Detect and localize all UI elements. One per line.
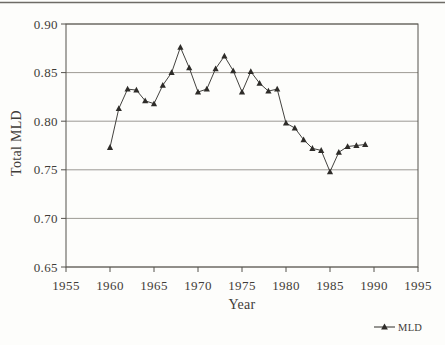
x-axis-title: Year (229, 297, 256, 312)
data-point-marker (274, 86, 280, 92)
x-tick-label: 1995 (404, 278, 432, 293)
x-tick-label: 1965 (140, 278, 168, 293)
y-tick-label: 0.90 (34, 17, 58, 32)
y-tick-label: 0.65 (34, 260, 58, 275)
data-point-marker (362, 141, 368, 147)
data-point-marker (327, 168, 333, 174)
data-point-marker (248, 68, 254, 74)
y-tick-label: 0.85 (34, 65, 58, 80)
data-point-marker (107, 144, 113, 150)
data-point-marker (177, 44, 183, 50)
data-point-marker (221, 53, 227, 59)
y-axis-title: Total MLD (9, 110, 24, 176)
data-point-marker (230, 67, 236, 73)
y-tick-label: 0.75 (34, 162, 58, 177)
data-point-marker (283, 120, 289, 126)
figure-page: 0.650.700.750.800.850.90 195519601965197… (0, 0, 445, 345)
data-point-marker (239, 89, 245, 95)
y-tick-label: 0.70 (34, 211, 58, 226)
x-tick-label: 1970 (184, 278, 212, 293)
mld-series (107, 44, 368, 174)
y-axis-ticks: 0.650.700.750.800.850.90 (34, 17, 66, 275)
x-tick-label: 1975 (228, 278, 256, 293)
x-tick-label: 1960 (96, 278, 124, 293)
x-tick-label: 1980 (272, 278, 300, 293)
x-tick-label: 1955 (52, 278, 80, 293)
data-point-marker (125, 86, 131, 92)
data-point-marker (336, 149, 342, 155)
legend: MLD (374, 322, 422, 333)
data-point-marker (204, 86, 210, 92)
x-axis-ticks: 195519601965197019751980198519901995 (52, 267, 432, 293)
legend-label: MLD (398, 322, 422, 333)
data-point-marker (292, 125, 298, 131)
mld-line-chart: 0.650.700.750.800.850.90 195519601965197… (0, 0, 445, 345)
series-line (110, 47, 365, 171)
data-point-marker (186, 64, 192, 70)
y-tick-label: 0.80 (34, 114, 58, 129)
x-tick-label: 1990 (360, 278, 388, 293)
data-point-marker (116, 105, 122, 111)
x-tick-label: 1985 (316, 278, 344, 293)
